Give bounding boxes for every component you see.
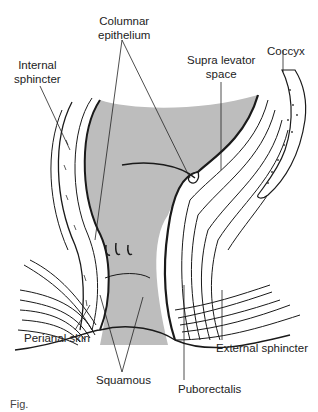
label-supra-levator-space: Supra levator space bbox=[187, 53, 255, 81]
label-columnar-epithelium: Columnar epithelium bbox=[98, 14, 150, 42]
label-external-sphincter: External sphincter bbox=[216, 341, 308, 355]
label-squamous: Squamous bbox=[96, 373, 151, 387]
label-puborectalis: Puborectalis bbox=[178, 382, 241, 396]
figure-caption: Fig. bbox=[10, 398, 28, 410]
label-internal-sphincter: Internal sphincter bbox=[14, 58, 61, 86]
label-coccyx: Coccyx bbox=[267, 44, 305, 58]
label-perianal-skin: Perianal skin bbox=[24, 331, 90, 345]
